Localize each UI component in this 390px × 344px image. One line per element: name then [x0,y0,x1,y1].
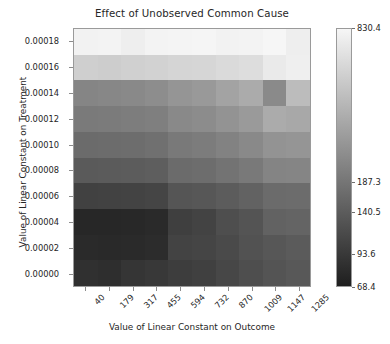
heatmap-cell [74,260,98,286]
heatmap-cell [192,29,216,55]
heatmap-cell [121,132,145,158]
x-axis-tick-mark [275,287,276,291]
heatmap-cell [239,29,263,55]
heatmap-cell [216,80,240,106]
heatmap-cell [239,235,263,261]
x-axis-tick-mark [252,287,253,291]
heatmap-cell [121,80,145,106]
heatmap-cell [145,235,169,261]
heatmap-cell [239,55,263,81]
colorbar-tick-label: 68.4 [357,282,375,292]
colorbar-tick-label: 93.6 [357,249,375,259]
x-axis-tick-mark [85,287,86,291]
heatmap-cell [239,158,263,184]
x-axis-tick-group: 40179317455594732870100911471285 [73,287,311,319]
heatmap-cell [74,183,98,209]
page-title: Effect of Unobserved Common Cause [73,8,311,19]
heatmap-cell [145,29,169,55]
colorbar-tick-mark [352,287,355,288]
heatmap-cell [192,260,216,286]
heatmap-cell [74,132,98,158]
heatmap-cell [286,29,310,55]
heatmap-cell [74,209,98,235]
x-axis-tick-mark [180,287,181,291]
heatmap-cell [216,55,240,81]
heatmap-cell [239,132,263,158]
x-axis-tick-mark [156,287,157,291]
heatmap-grid [74,29,310,286]
x-axis-tick-label: 1147 [285,292,307,314]
colorbar-tick-label: 140.5 [357,207,381,217]
heatmap-cell [263,235,287,261]
x-axis-tick-mark [204,287,205,291]
heatmap-cell [98,132,122,158]
heatmap-plot-area[interactable] [73,28,311,287]
heatmap-cell [192,132,216,158]
heatmap-cell [98,158,122,184]
heatmap-cell [192,106,216,132]
y-axis-tick-label: 0.00014 [25,88,59,98]
y-axis-tick-label: 0.00000 [25,269,59,279]
heatmap-cell [121,55,145,81]
colorbar-tick-mark [352,182,355,183]
heatmap-cell [121,235,145,261]
y-axis-tick-label: 0.00004 [25,217,59,227]
x-axis-tick-label: 179 [117,292,135,310]
x-axis-tick-mark [299,287,300,291]
x-axis-tick-mark [228,287,229,291]
heatmap-cell [168,183,192,209]
x-axis-tick-mark [133,287,134,291]
heatmap-cell [98,235,122,261]
colorbar-tick-label: 187.3 [357,177,381,187]
x-axis-tick-label: 732 [213,292,231,310]
heatmap-cell [74,106,98,132]
heatmap-cell [216,29,240,55]
heatmap-cell [121,209,145,235]
heatmap-cell [216,235,240,261]
x-axis-tick-label: 594 [189,292,207,310]
y-axis-tick-label: 0.00006 [25,191,59,201]
y-axis-tick-label: 0.00016 [25,62,59,72]
heatmap-cell [216,132,240,158]
heatmap-cell [263,55,287,81]
y-axis-tick-group: 0.000000.000020.000040.000060.000080.000… [0,28,66,287]
heatmap-cell [239,209,263,235]
heatmap-cell [74,80,98,106]
colorbar-tick-mark [352,254,355,255]
heatmap-cell [98,80,122,106]
heatmap-cell [263,158,287,184]
heatmap-cell [192,209,216,235]
heatmap-cell [286,158,310,184]
heatmap-cell [98,183,122,209]
colorbar-tick-group: 830.4187.3140.593.668.4 [336,28,390,287]
x-axis-label: Value of Linear Constant on Outcome [73,322,311,332]
heatmap-cell [192,183,216,209]
heatmap-cell [74,235,98,261]
heatmap-cell [74,158,98,184]
colorbar-tick-label: 830.4 [357,23,381,33]
heatmap-cell [121,158,145,184]
x-axis-tick-label: 1285 [309,292,331,314]
heatmap-cell [192,55,216,81]
y-axis-tick-label: 0.00018 [25,36,59,46]
colorbar-tick-mark [352,212,355,213]
heatmap-cell [263,260,287,286]
heatmap-cell [145,55,169,81]
heatmap-cell [74,55,98,81]
heatmap-cell [168,80,192,106]
x-axis-tick-label: 1009 [262,292,284,314]
heatmap-cell [145,209,169,235]
heatmap-cell [145,106,169,132]
heatmap-cell [145,80,169,106]
heatmap-cell [263,106,287,132]
heatmap-cell [216,158,240,184]
heatmap-cell [263,80,287,106]
heatmap-cell [168,235,192,261]
heatmap-cell [168,106,192,132]
heatmap-cell [286,80,310,106]
x-axis-tick-label: 870 [236,292,254,310]
heatmap-cell [168,132,192,158]
heatmap-cell [121,29,145,55]
heatmap-cell [263,29,287,55]
heatmap-cell [286,260,310,286]
